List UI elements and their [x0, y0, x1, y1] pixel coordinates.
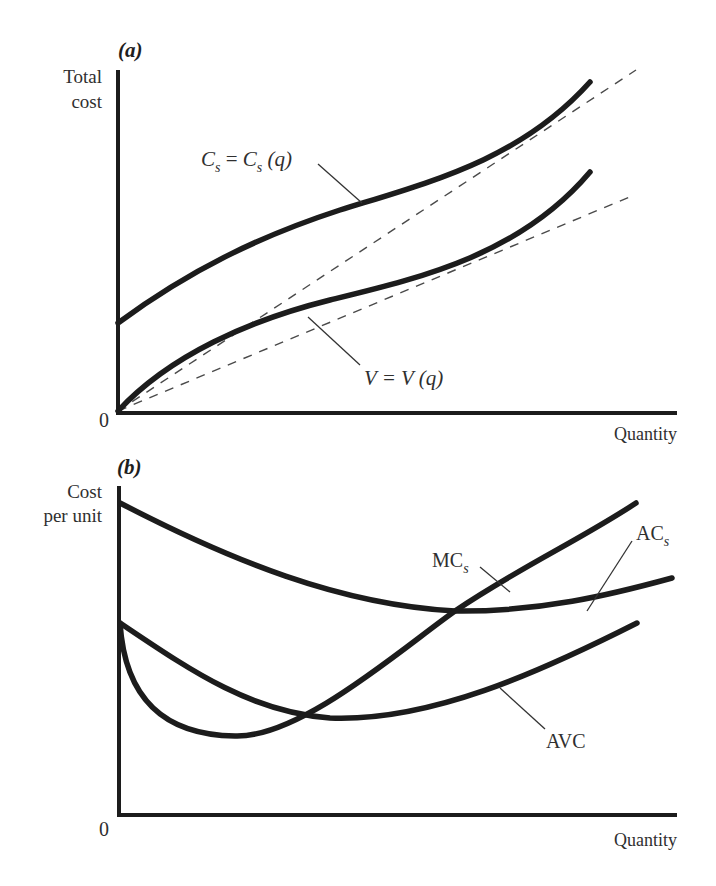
panel-a-ray-tangent-total-cost — [118, 70, 636, 411]
avc-label-leader-line — [500, 688, 545, 729]
v-label-leader-line — [308, 317, 360, 365]
total-cost-curve-cs — [118, 82, 590, 323]
cost-curves-figure: (a) Total cost 0 Quantity Cs = Cs (q) V … — [0, 0, 716, 886]
average-cost-curve-acs — [120, 503, 672, 611]
acs-label-leader-line — [587, 541, 632, 611]
panel-a-tag: (a) — [118, 38, 143, 62]
panel-a-origin-label: 0 — [99, 409, 109, 431]
cs-label-leader-line — [318, 164, 362, 203]
cs-curve-label: Cs = Cs (q) — [201, 147, 292, 175]
panel-a-xlabel: Quantity — [614, 424, 677, 444]
panel-a-ylabel-line2: cost — [71, 91, 102, 112]
panel-b-xlabel: Quantity — [614, 830, 677, 850]
panel-a-axes — [118, 70, 677, 413]
panel-b-origin-label: 0 — [99, 818, 109, 840]
panel-a-ylabel-line1: Total — [63, 66, 102, 87]
acs-curve-label: ACs — [636, 522, 670, 549]
panel-b: (b) Cost per unit 0 Quantity MCs ACs AVC — [43, 455, 677, 850]
panel-b-tag: (b) — [117, 455, 142, 479]
panel-a: (a) Total cost 0 Quantity Cs = Cs (q) V … — [63, 38, 677, 444]
panel-b-ylabel-line1: Cost — [67, 481, 103, 502]
mcs-curve-label: MCs — [432, 549, 469, 576]
panel-b-ylabel-line2: per unit — [43, 505, 102, 526]
avc-curve-label: AVC — [546, 730, 586, 752]
v-curve-label: V = V (q) — [364, 366, 443, 390]
